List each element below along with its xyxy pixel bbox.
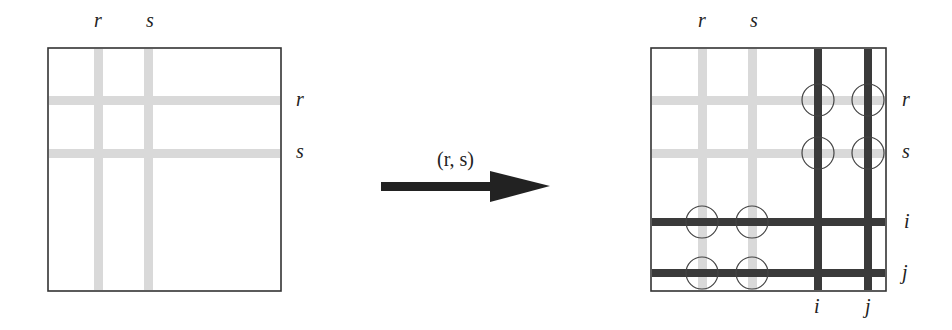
right-bottom-label-j: j xyxy=(862,295,871,318)
transform-arrow: (r, s) xyxy=(381,148,550,202)
right-row-label-r: r xyxy=(902,88,910,110)
right-row-s-line xyxy=(652,149,885,158)
left-col-r-line xyxy=(94,49,103,290)
right-col-label-s: s xyxy=(750,9,758,31)
left-matrix: r s r s xyxy=(48,9,304,291)
right-matrix-border xyxy=(651,48,886,291)
right-col-r-line xyxy=(698,49,707,290)
left-row-label-r: r xyxy=(296,88,304,110)
arrow-head-icon xyxy=(490,171,550,202)
left-col-label-r: r xyxy=(94,9,102,31)
right-row-r-line xyxy=(652,96,885,105)
right-row-label-j: j xyxy=(899,261,908,284)
left-row-r-line xyxy=(49,96,280,105)
arrow-label: (r, s) xyxy=(437,148,474,171)
right-bottom-label-i: i xyxy=(814,295,820,317)
left-matrix-border xyxy=(48,48,281,291)
right-matrix: r s r s i j i j xyxy=(651,9,910,318)
right-row-label-s: s xyxy=(902,140,910,162)
right-row-label-i: i xyxy=(904,210,910,232)
right-col-s-line xyxy=(748,49,757,290)
left-row-label-s: s xyxy=(296,140,304,162)
left-row-s-line xyxy=(49,149,280,158)
matrix-swap-diagram: r s r s (r, s) r xyxy=(0,0,952,330)
right-col-label-r: r xyxy=(698,9,706,31)
left-col-label-s: s xyxy=(146,9,154,31)
left-col-s-line xyxy=(144,49,153,290)
arrow-shaft xyxy=(381,182,491,191)
